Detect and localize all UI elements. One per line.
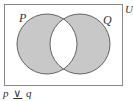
caption: p ∨ q <box>3 88 33 99</box>
universe-label: U <box>125 4 133 15</box>
caption-right-operand: q <box>26 87 33 99</box>
set-q-label: Q <box>103 14 112 26</box>
xor-operator: ∨ <box>13 87 22 99</box>
set-p-label: P <box>19 12 26 24</box>
caption-left-operand: p <box>3 87 10 99</box>
